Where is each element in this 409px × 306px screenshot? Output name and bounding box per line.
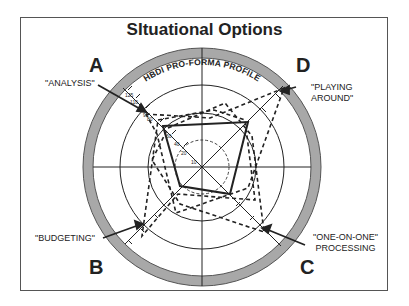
hbdi-profile-diagram: 10 20 40 60 80 90 110 125 HBDI PRO-FORMA… — [0, 0, 409, 306]
callout-budgeting: "BUDGETING" — [35, 233, 95, 244]
quadrant-b-label: B — [89, 256, 103, 279]
callout-oneonone-line2: PROCESSING — [313, 243, 378, 254]
callout-oneonone-line1: "ONE-ON-ONE" — [313, 232, 378, 243]
quadrant-c-label: C — [300, 256, 314, 279]
diagram-title: SItuational Options — [0, 20, 409, 40]
svg-text:125: 125 — [125, 92, 134, 98]
callout-playing-line2: AROUND" — [311, 93, 353, 104]
callout-playing-line1: "PLAYING — [311, 82, 353, 93]
quadrant-a-label: A — [89, 54, 103, 77]
primary-profile — [163, 122, 248, 194]
callout-analysis: "ANALYSIS" — [45, 78, 95, 89]
svg-text:10: 10 — [191, 159, 197, 165]
svg-text:40: 40 — [174, 141, 180, 147]
svg-text:20: 20 — [181, 150, 187, 156]
profile-budgeting-dashed — [142, 110, 255, 236]
quadrant-d-label: D — [296, 54, 310, 77]
callout-one-on-one: "ONE-ON-ONE" PROCESSING — [313, 232, 378, 254]
diagonal-axis-b-d — [125, 86, 283, 244]
callout-playing-around: "PLAYING AROUND" — [311, 82, 353, 104]
